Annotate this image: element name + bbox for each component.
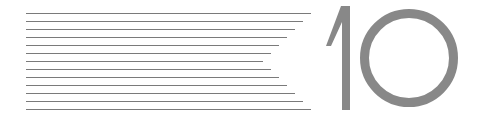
number-ten-graphic: 10	[0, 0, 481, 121]
digit-one-icon	[326, 6, 350, 110]
digit-zero-icon	[365, 14, 454, 103]
